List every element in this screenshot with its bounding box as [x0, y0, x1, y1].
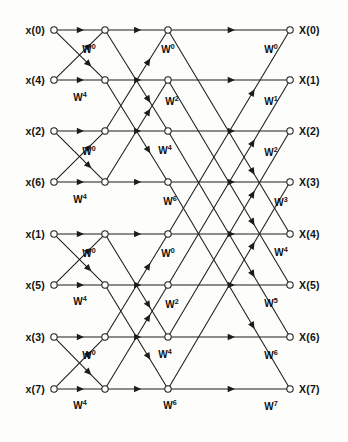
twiddle-label: W4 [73, 398, 86, 411]
flow-arrowhead [228, 334, 235, 341]
terminal-node [287, 27, 293, 33]
flow-arrowhead [77, 282, 84, 289]
fft-flow-graph-canvas: W0W4W0W4W0W4W0W4W0W2W4W6W0W2W4W6W0W1W2W3… [0, 0, 348, 442]
output-label-3: X(3) [299, 176, 320, 188]
butterfly-node [165, 386, 171, 392]
flow-arrowhead [144, 109, 151, 117]
input-label-3: x(6) [26, 176, 45, 188]
twiddle-label: W4 [158, 347, 171, 360]
terminal-node [287, 231, 293, 237]
flow-arrowhead [144, 263, 151, 271]
flow-arrowhead [248, 218, 255, 226]
input-label-4: x(1) [26, 228, 45, 240]
output-label-4: X(4) [299, 228, 320, 240]
terminal-node [51, 128, 57, 134]
terminal-node [51, 27, 57, 33]
terminal-node [287, 77, 293, 83]
flow-arrowhead [144, 58, 151, 66]
input-label-5: x(5) [26, 279, 45, 291]
terminal-node [287, 334, 293, 340]
edges-layer [56, 30, 288, 389]
twiddle-label: W2 [165, 297, 178, 310]
flow-arrowhead [228, 231, 235, 238]
terminal-node [51, 77, 57, 83]
butterfly-node [102, 231, 108, 237]
flow-arrowhead [228, 27, 235, 34]
twiddle-label: W5 [264, 296, 277, 309]
flow-arrowhead [144, 95, 151, 103]
output-label-1: X(1) [299, 74, 320, 86]
terminal-node [51, 282, 57, 288]
flow-arrowhead [248, 140, 255, 148]
output-label-7: X(7) [299, 383, 320, 395]
butterfly-node [165, 334, 171, 340]
input-label-7: x(7) [26, 383, 45, 395]
flow-arrowhead [77, 334, 84, 341]
twiddle-label: W0 [161, 42, 174, 55]
twiddle-label: W1 [264, 94, 277, 107]
twiddle-label: W4 [158, 143, 171, 156]
butterfly-node [102, 179, 108, 185]
terminal-node [51, 334, 57, 340]
butterfly-node [165, 179, 171, 185]
input-label-0: x(0) [26, 24, 45, 36]
butterfly-node [102, 334, 108, 340]
butterfly-node [165, 128, 171, 134]
flow-arrowhead [134, 386, 141, 393]
twiddle-label: W4 [73, 294, 86, 307]
butterfly-node [165, 27, 171, 33]
twiddle-label: W6 [163, 398, 176, 411]
twiddle-label: W7 [264, 399, 277, 412]
terminal-node [51, 231, 57, 237]
flow-arrowhead [134, 231, 141, 238]
twiddle-label: W4 [73, 90, 86, 103]
fft-signal-flow-diagram: W0W4W0W4W0W4W0W4W0W2W4W6W0W2W4W6W0W1W2W3… [0, 0, 348, 442]
twiddle-label: W0 [82, 246, 95, 259]
butterfly-node [102, 282, 108, 288]
butterfly-node [165, 282, 171, 288]
output-label-0: X(0) [299, 24, 320, 36]
terminal-node [51, 179, 57, 185]
twiddle-label: W4 [274, 245, 287, 258]
flow-arrowhead [144, 314, 151, 322]
twiddle-label: W6 [163, 194, 176, 207]
output-label-6: X(6) [299, 331, 320, 343]
flow-arrowhead [134, 27, 141, 34]
twiddle-label: W4 [73, 192, 86, 205]
flow-arrowhead [77, 179, 84, 186]
flow-arrowhead [228, 179, 235, 186]
input-label-1: x(4) [26, 74, 45, 86]
flow-arrowhead [144, 352, 151, 360]
flow-arrowhead [248, 269, 255, 277]
input-label-2: x(2) [26, 125, 45, 137]
twiddle-label: W2 [165, 94, 178, 107]
flow-arrowhead [144, 300, 151, 308]
flow-arrowhead [248, 89, 255, 97]
flow-arrowhead [77, 128, 84, 135]
twiddle-label: W6 [264, 348, 277, 361]
output-label-2: X(2) [299, 125, 320, 137]
output-label-5: X(5) [299, 279, 320, 291]
flow-arrowhead [248, 242, 255, 250]
flow-arrowhead [248, 191, 255, 199]
butterfly-node [102, 77, 108, 83]
flow-arrowhead [77, 77, 84, 84]
twiddle-label: W0 [82, 348, 95, 361]
twiddle-label: W0 [161, 246, 174, 259]
terminal-node [287, 386, 293, 392]
flow-arrowhead [77, 231, 84, 238]
flow-arrowhead [144, 146, 151, 154]
flow-arrowhead [228, 282, 235, 289]
butterfly-node [102, 27, 108, 33]
twiddle-label: W0 [82, 42, 95, 55]
flow-arrowhead [77, 386, 84, 393]
input-label-6: x(3) [26, 331, 45, 343]
butterfly-node [102, 386, 108, 392]
terminal-node [287, 128, 293, 134]
butterfly-node [165, 77, 171, 83]
terminal-node [287, 179, 293, 185]
flow-arrowhead [248, 321, 255, 329]
twiddle-label: W0 [82, 144, 95, 157]
butterfly-node [165, 231, 171, 237]
flow-arrowhead [228, 386, 235, 393]
